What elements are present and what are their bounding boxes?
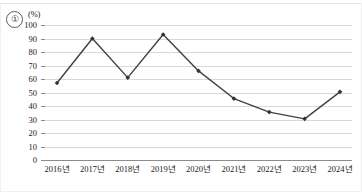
plot-area: 0102030405060708090100 2016년2017년2018년20… xyxy=(45,25,352,160)
x-axis-tick-label: 2018년 xyxy=(115,165,140,174)
x-axis-tick-label: 2023년 xyxy=(292,165,317,174)
x-axis-tick-label: 2020년 xyxy=(186,165,211,174)
gridline xyxy=(45,160,352,161)
y-axis-tick-label: 40 xyxy=(9,102,37,111)
x-axis-tick-label: 2017년 xyxy=(80,165,105,174)
y-axis-tick-label: 80 xyxy=(9,48,37,57)
y-axis-tick-label: 20 xyxy=(9,129,37,138)
y-axis-tick-label: 10 xyxy=(9,142,37,151)
x-axis-tick-label: 2024년 xyxy=(328,165,353,174)
x-axis-tick-label: 2021년 xyxy=(221,165,246,174)
x-axis-tick-label: 2022년 xyxy=(257,165,282,174)
line-series-svg xyxy=(45,25,352,160)
y-axis-tick-label: 70 xyxy=(9,61,37,70)
y-axis-tick-label: 90 xyxy=(9,34,37,43)
y-axis-tick-label: 50 xyxy=(9,88,37,97)
y-axis-tick-label: 100 xyxy=(9,21,37,30)
series-line xyxy=(57,34,340,118)
x-axis-tick-label: 2016년 xyxy=(45,165,70,174)
data-point-marker xyxy=(267,110,272,115)
y-axis-tick-mark xyxy=(41,160,45,161)
chart-figure: ① (%) 0102030405060708090100 2016년2017년2… xyxy=(0,0,362,195)
y-axis-tick-label: 30 xyxy=(9,115,37,124)
y-axis-unit-label: (%) xyxy=(28,9,40,19)
y-axis-tick-label: 0 xyxy=(9,156,37,165)
x-axis-tick-label: 2019년 xyxy=(151,165,176,174)
y-axis-tick-label: 60 xyxy=(9,75,37,84)
